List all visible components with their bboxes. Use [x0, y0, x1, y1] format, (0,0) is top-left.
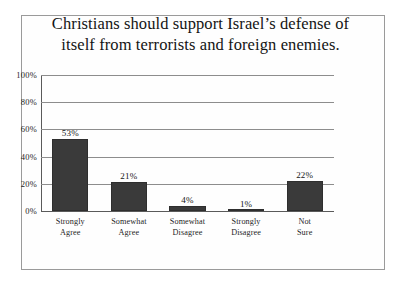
bar[interactable]: [228, 209, 264, 211]
x-axis-category-label: Strongly Disagree: [215, 217, 277, 239]
bar-group: 1%Strongly Disagree: [228, 75, 264, 211]
bar-value-label: 4%: [181, 195, 193, 205]
gridline-0: [41, 211, 334, 212]
y-tick-label: 100%: [16, 70, 37, 80]
bar[interactable]: [52, 139, 88, 211]
plot-area: 0%20%40%60%80%100% 53%Strongly Agree21%S…: [41, 75, 334, 211]
bar[interactable]: [169, 206, 205, 211]
bar-group: 21%Somewhat Agree: [111, 75, 147, 211]
bar-group: 22%Not Sure: [287, 75, 323, 211]
bar-value-label: 53%: [62, 128, 79, 138]
y-tick-label: 60%: [21, 124, 37, 134]
bar-value-label: 22%: [296, 170, 313, 180]
bar-group: 53%Strongly Agree: [52, 75, 88, 211]
bar-value-label: 21%: [120, 171, 137, 181]
x-axis-category-label: Not Sure: [274, 217, 336, 239]
y-tick-label: 80%: [21, 97, 37, 107]
bar[interactable]: [287, 181, 323, 211]
y-tick-label: 20%: [21, 179, 37, 189]
bar-value-label: 1%: [240, 199, 252, 209]
y-axis-line: [41, 75, 42, 211]
y-tick-label: 40%: [21, 152, 37, 162]
bar-group: 4%Somewhat Disagree: [169, 75, 205, 211]
x-axis-category-label: Strongly Agree: [39, 217, 101, 239]
y-tick-label: 0%: [25, 206, 37, 216]
chart-title: Christians should support Israel’s defen…: [0, 13, 401, 55]
bar[interactable]: [111, 182, 147, 211]
x-axis-category-label: Somewhat Agree: [98, 217, 160, 239]
x-axis-category-label: Somewhat Disagree: [156, 217, 218, 239]
